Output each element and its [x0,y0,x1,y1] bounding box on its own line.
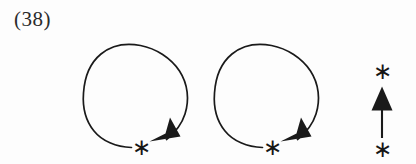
circular-arrow-left-asterisk: ∗ [132,135,151,160]
circular-arrow-left-head [150,118,181,142]
circular-arrow-right-head [281,118,312,142]
straight-arrow-up: ∗ ∗ [372,59,393,162]
straight-arrow-top-asterisk: ∗ [373,59,392,84]
straight-arrow-head [372,87,393,111]
circular-arrow-right: ∗ [214,45,318,160]
circular-arrow-left: ∗ [83,45,187,160]
figure-canvas: (38) ∗ ∗ ∗ ∗ [0,0,416,164]
straight-arrow-bottom-asterisk: ∗ [373,137,392,162]
diagram-svg: ∗ ∗ ∗ ∗ [0,0,416,164]
circular-arrow-right-asterisk: ∗ [263,135,282,160]
